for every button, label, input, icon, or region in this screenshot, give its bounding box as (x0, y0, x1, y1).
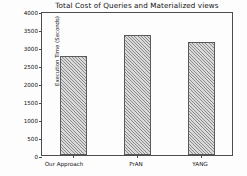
y-tick-mark (39, 103, 42, 104)
bar-yang: 3139 (188, 42, 215, 155)
y-tick-mark (39, 157, 42, 158)
x-tick-mark (201, 155, 202, 158)
y-tick-mark (39, 49, 42, 50)
x-label-pran: PrAN (104, 160, 168, 168)
bar-our-approach: 2750 (60, 56, 87, 155)
y-tick-mark (39, 13, 42, 14)
x-label-yang: YANG (168, 160, 232, 168)
y-tick-label: 3500 (24, 27, 38, 36)
bar-value: 3333 (125, 36, 126, 37)
y-tick-label: 3000 (24, 45, 38, 54)
plot-area: Execution Time (Seconds) 0 500 1000 1500… (41, 12, 233, 156)
y-tick-label: 4000 (24, 9, 38, 18)
y-tick-label: 1000 (24, 117, 38, 126)
y-tick-mark (39, 121, 42, 122)
x-label-our-approach: Our Approach (32, 160, 96, 168)
x-tick-mark (73, 155, 74, 158)
y-tick-label: 1500 (24, 99, 38, 108)
chart-title: Total Cost of Queries and Materialized v… (41, 1, 233, 10)
y-tick-mark (39, 67, 42, 68)
bar-value: 3139 (189, 43, 190, 44)
y-tick-mark (39, 139, 42, 140)
y-tick-label: 2500 (24, 63, 38, 72)
x-tick-mark (137, 155, 138, 158)
y-tick-label: 2000 (24, 81, 38, 90)
bar-value: 2750 (61, 57, 62, 58)
bar-pran: 3333 (124, 35, 151, 155)
y-tick-mark (39, 31, 42, 32)
chart-figure: Total Cost of Queries and Materialized v… (0, 0, 247, 176)
y-tick-label: 500 (27, 135, 38, 144)
y-tick-mark (39, 85, 42, 86)
